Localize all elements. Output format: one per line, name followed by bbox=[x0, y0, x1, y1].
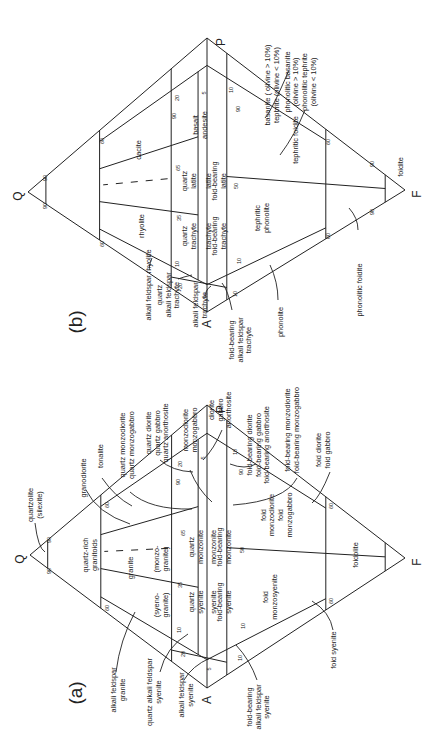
vertex-f-label: F bbox=[410, 558, 424, 565]
region-label-syeno-granite: (syeno-granite) bbox=[152, 592, 170, 617]
tick-label: 65 bbox=[180, 530, 186, 536]
region-label-quartz-rich-granitoids: quartz-richgranitoids bbox=[81, 538, 99, 573]
callout-label-foid-bearing-monzodiorite: foid-bearing monzodioritefoid-bearing mo… bbox=[283, 387, 301, 473]
tick-label: 90 bbox=[175, 479, 181, 485]
f-ratio-50 bbox=[227, 548, 385, 557]
granite-split-dashed bbox=[103, 179, 167, 185]
callout-label-quartz-alkali-feldspar: quartz alkali feldsparsyenite bbox=[145, 658, 163, 726]
ratio-line-35 bbox=[100, 202, 198, 215]
region-label-granite: granite bbox=[126, 557, 135, 580]
tick-label: 90 bbox=[238, 469, 244, 475]
region-label-quartz-syenite: quartzsyenite bbox=[187, 590, 205, 613]
callout-label-foid-bearing: foid-bearingalkali feldspartrachyte bbox=[227, 317, 253, 363]
tick-label: 90 bbox=[171, 113, 177, 119]
tick-label: 65 bbox=[175, 165, 181, 171]
region-label-quartz-monzonite: quartzmonzonite bbox=[187, 530, 205, 564]
tick-label: 10 bbox=[237, 655, 243, 661]
leader-line bbox=[349, 208, 358, 230]
tick-label: 60 bbox=[325, 233, 331, 239]
region-label-tephritic-phonolite: tephriticphonolite bbox=[253, 203, 271, 233]
vertex-a-label: A bbox=[200, 320, 214, 328]
callout-label-granodiorite: granodiorite bbox=[79, 458, 88, 497]
region-label-foid-bearing-trachyte: foid-bearingtrachyte bbox=[210, 216, 228, 255]
tick-label: 90 bbox=[42, 175, 48, 181]
region-label-foid-bearing-monzonite: foid-bearingmonzonite bbox=[215, 527, 233, 566]
leader-line bbox=[116, 612, 135, 672]
region-label-foidite: foidite bbox=[396, 157, 405, 177]
vertex-a-label: A bbox=[200, 696, 214, 704]
region-label-foid-bearing-latite: foid-bearinglatite bbox=[210, 161, 228, 200]
region-label-foid-monzodiorite-foid-monzogabbro: foidmonzodioritefoidmonzogabbro bbox=[259, 492, 294, 537]
region-label-dacite: dacite bbox=[134, 140, 143, 160]
tick-label: 20 bbox=[177, 461, 183, 467]
region-label-monzo-granite: (monzo-granite) bbox=[152, 545, 170, 573]
tick-label: 35 bbox=[176, 215, 182, 221]
qapf-double-triangle-figure: QPAF(b)909060602020906535105109050101060… bbox=[0, 0, 430, 746]
tick-label: 90 bbox=[369, 209, 375, 215]
vertex-f-label: F bbox=[410, 190, 424, 197]
tick-label: 60 bbox=[99, 241, 105, 247]
tick-label: 5 bbox=[201, 91, 207, 94]
tick-label: 60 bbox=[104, 502, 110, 508]
callout-label-foid-syenite: foid syenite bbox=[329, 631, 338, 668]
tick-label: 90 bbox=[46, 568, 52, 574]
region-label-quartz-latite: quartzlatite bbox=[180, 170, 198, 191]
tick-label: 10 bbox=[240, 623, 246, 629]
region-label-foidolite: foidolite bbox=[351, 542, 360, 567]
ratio-line-65 bbox=[100, 137, 198, 169]
qapf-diagrams-svg: QPAF(b)909060602020906535105109050101060… bbox=[0, 0, 430, 746]
panel-a: QPAF(a)909060602020906535105510905010106… bbox=[13, 387, 424, 730]
callout-label-foid-diorite: foid dioritefoid gabbro bbox=[314, 432, 332, 469]
vertex-q-label: Q bbox=[11, 191, 25, 200]
tick-label: 10 bbox=[174, 261, 180, 267]
tick-label: 35 bbox=[177, 582, 183, 588]
vertex-q-label: Q bbox=[13, 554, 27, 563]
vertex-p-label: P bbox=[214, 38, 228, 46]
tick-label: 60 bbox=[328, 503, 334, 509]
callout-label-phonolitic-basanite: phonolitic basanite(olivine > 10%)phonol… bbox=[283, 51, 318, 112]
callout-label-basanite-olivine: basanite ( olivine > 10%)tephrite (olivi… bbox=[263, 44, 281, 125]
callout-label-monzodiorite: monzodioritemonzogabbro bbox=[181, 407, 199, 452]
callout-label-diorite: dioritegabbroanorthosite bbox=[207, 392, 233, 429]
f-ratio-50 bbox=[227, 177, 385, 189]
region-label-quartz-trachyte: quartztrachyte bbox=[180, 223, 198, 249]
leader-line bbox=[178, 275, 192, 279]
callout-label-quartz-diorite: quartz dioritequartz gabbroquartz anorth… bbox=[144, 403, 170, 462]
callout-label-phonolitic-foidite: phonolitic foidite bbox=[355, 263, 364, 316]
callout-label-quartzolite: quartzolite(silexite) bbox=[26, 488, 44, 522]
callout-label-tonalite: tonalite bbox=[96, 444, 105, 468]
tick-label: 10 bbox=[236, 258, 242, 264]
tick-label: 10 bbox=[228, 87, 234, 93]
callout-label-phonolite: phonolite bbox=[276, 307, 285, 337]
tick-label: 10 bbox=[176, 627, 182, 633]
callout-label-alkali-feldspar: alkali feldsparsyenite bbox=[177, 672, 195, 718]
tick-label: 60 bbox=[328, 598, 334, 604]
tick-label: 5 bbox=[206, 667, 212, 670]
tick-label: 60 bbox=[104, 605, 110, 611]
tick-label: 10 bbox=[232, 291, 238, 297]
region-label-basalt-andesite: basaltandesite bbox=[191, 111, 209, 139]
panel-b: QPAF(b)909060602020906535105109050101060… bbox=[11, 38, 424, 363]
tick-label: 50 bbox=[233, 183, 239, 189]
callout-label-quartz: quartzalkali feldspartrachyte bbox=[155, 272, 181, 318]
callout-label-quartz-monzodiorite: quartz monzodioritequartz monzogabbro bbox=[118, 411, 136, 479]
callout-label-foid-bearing-diorite: foid-bearing dioritefoid-bearing gabbrof… bbox=[245, 406, 271, 484]
callout-label-alkali-feldspar: alkali feldspargranite bbox=[109, 667, 127, 713]
region-label-tephritic-foidite: tephritic foidite bbox=[291, 116, 300, 164]
tick-label: 20 bbox=[174, 95, 180, 101]
tick-label: 50 bbox=[239, 547, 245, 553]
tick-label: 90 bbox=[369, 161, 375, 167]
panel-label-b: (b) bbox=[65, 310, 86, 333]
callout-label-alkali-feldspar-rhyolite: alkali feldspar rhyolite bbox=[144, 249, 153, 320]
leader-line bbox=[35, 523, 45, 552]
leader-line bbox=[312, 601, 333, 630]
region-label-rhyolite: rhyolite bbox=[137, 214, 146, 238]
callout-label-foid-bearing: foid-bearingalkali feldsparsyenite bbox=[245, 684, 271, 730]
tick-label: 90 bbox=[235, 106, 241, 112]
region-label-foid-monzosyenite: foidmonzosyenite bbox=[261, 574, 279, 620]
tick-label: 90 bbox=[46, 537, 52, 543]
leader-line bbox=[130, 492, 192, 509]
tick-label: 20 bbox=[180, 651, 186, 657]
region-label-foid-bearing-syenite: foid-bearingsyenite bbox=[215, 582, 233, 621]
leader-line bbox=[190, 470, 212, 502]
